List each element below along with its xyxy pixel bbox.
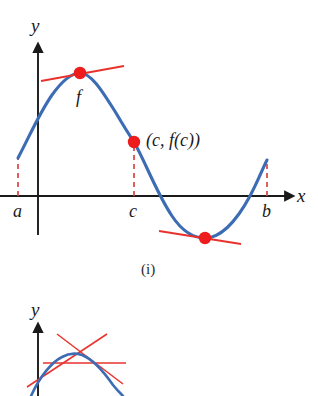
figure-root: y x f (c, f(c)) a c b (i) y bbox=[0, 0, 318, 396]
y-axis-label-ii: y bbox=[31, 300, 39, 319]
panel-ii-graphic bbox=[0, 0, 318, 396]
